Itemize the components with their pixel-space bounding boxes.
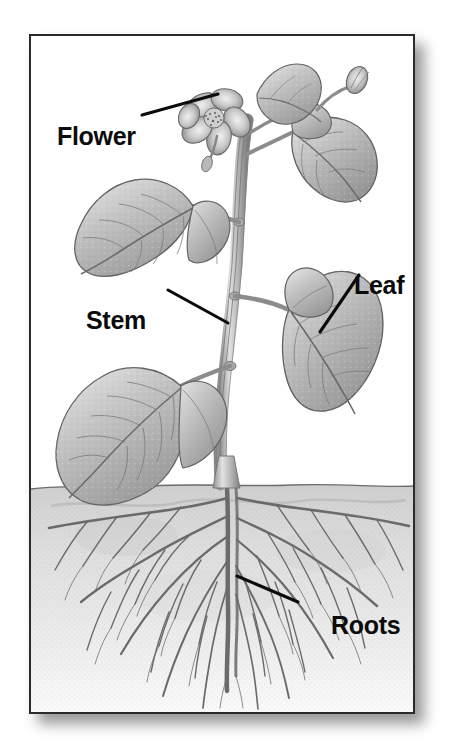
label-stem: Stem <box>86 308 146 333</box>
illustration-canvas: Flower Stem Leaf Roots <box>31 36 413 712</box>
illustration-frame: Flower Stem Leaf Roots <box>29 34 415 714</box>
leaf-top-small <box>257 64 321 124</box>
figure-page: Flower Stem Leaf Roots <box>0 0 452 751</box>
label-leaf: Leaf <box>354 273 404 298</box>
leader-line-stem <box>168 290 228 323</box>
flower-bud <box>317 63 372 110</box>
leaf-upper-left <box>75 179 230 276</box>
label-roots: Roots <box>331 613 400 638</box>
label-flower: Flower <box>57 124 136 149</box>
